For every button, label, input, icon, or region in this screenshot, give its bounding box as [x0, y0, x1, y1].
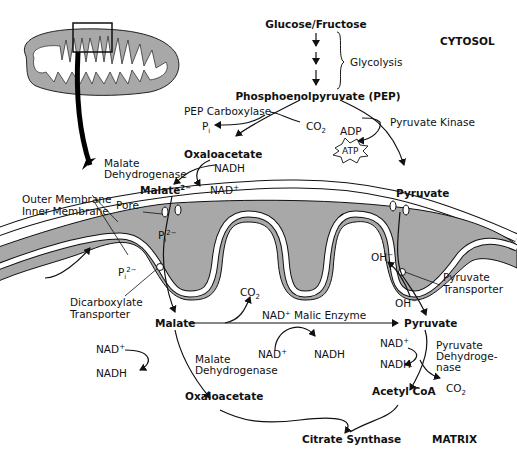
nadh-mid-label: NADH [314, 348, 345, 360]
nad-plus-left-label: NAD+ [96, 343, 125, 355]
pyruvate-transporter-label-2: Transporter [443, 283, 503, 295]
cytosol-label: CYTOSOL [440, 35, 495, 47]
co2-label: CO2 [306, 120, 326, 132]
pi-label: Pi [202, 120, 210, 132]
malate-cytosol-label: Malate2− [140, 184, 191, 196]
atp-label: ATP [342, 145, 358, 157]
pore-left [162, 207, 168, 217]
nad-plus-right-label: NAD+ [380, 337, 409, 349]
pdh-label-3: nase [436, 361, 461, 373]
outer-membrane-label: Outer Membrane [22, 193, 111, 205]
citrate-synthase-label: Citrate Synthase [302, 433, 401, 445]
pyruvate-transporter-label-1: Pyruvate [443, 271, 490, 283]
pyruvate-kinase-label: Pyruvate Kinase [390, 116, 475, 128]
pyruvate-matrix-label: Pyruvate [404, 317, 457, 329]
pep-label: Phosphoenolpyruvate (PEP) [235, 90, 400, 102]
dicarboxylate-transporter-icon [157, 264, 164, 271]
oxaloacetate-cytosol-label: Oxaloacetate [184, 148, 262, 160]
glycolysis-label: Glycolysis [350, 56, 402, 68]
malic-enzyme-label: NAD⁺ Malic Enzyme [262, 309, 366, 321]
pep-carboxylase-label: PEP Carboxylase [184, 105, 271, 117]
oh-inside-label: OH− [371, 251, 393, 263]
inner-membrane-label: Inner Membrane [22, 205, 109, 217]
pore-right [390, 201, 396, 211]
adp-label: ADP [340, 125, 362, 137]
mitochondrion-thumbnail-icon [24, 23, 179, 170]
nadh-cytosol-label: NADH [214, 162, 245, 174]
co2-matrix-label: CO2 [240, 286, 260, 298]
pore-label: Pore [116, 199, 139, 211]
pyruvate-cytosol-label: Pyruvate [396, 187, 449, 199]
nadh-left-label: NADH [96, 367, 127, 379]
oh-outside-label: OH− [395, 297, 417, 309]
acetyl-coa-label: Acetyl CoA [372, 385, 436, 397]
dicarboxylate-transporter-label-2: Transporter [70, 308, 130, 320]
co2-right-label: CO2 [446, 382, 466, 394]
glucose-fructose-label: Glucose/Fructose [265, 18, 366, 30]
glycolysis-arrows [316, 32, 344, 89]
pi-inside-label: Pi2− [158, 229, 177, 241]
nadh-right-label: NADH [380, 358, 411, 370]
nad-plus-cytosol-label: NAD+ [210, 184, 239, 196]
mdh-cytosol-label-2: Dehydrogenase [104, 168, 187, 180]
pi-outside-label: Pi2− [118, 266, 137, 278]
mdh-matrix-label-2: Dehydrogenase [195, 364, 278, 376]
matrix-label: MATRIX [432, 433, 477, 445]
dicarboxylate-transporter-label-1: Dicarboxylate [70, 296, 143, 308]
malate-matrix-label: Malate [155, 317, 195, 329]
oxaloacetate-matrix-label: Oxaloacetate [185, 390, 263, 402]
nad-plus-mid-label: NAD+ [258, 348, 287, 360]
